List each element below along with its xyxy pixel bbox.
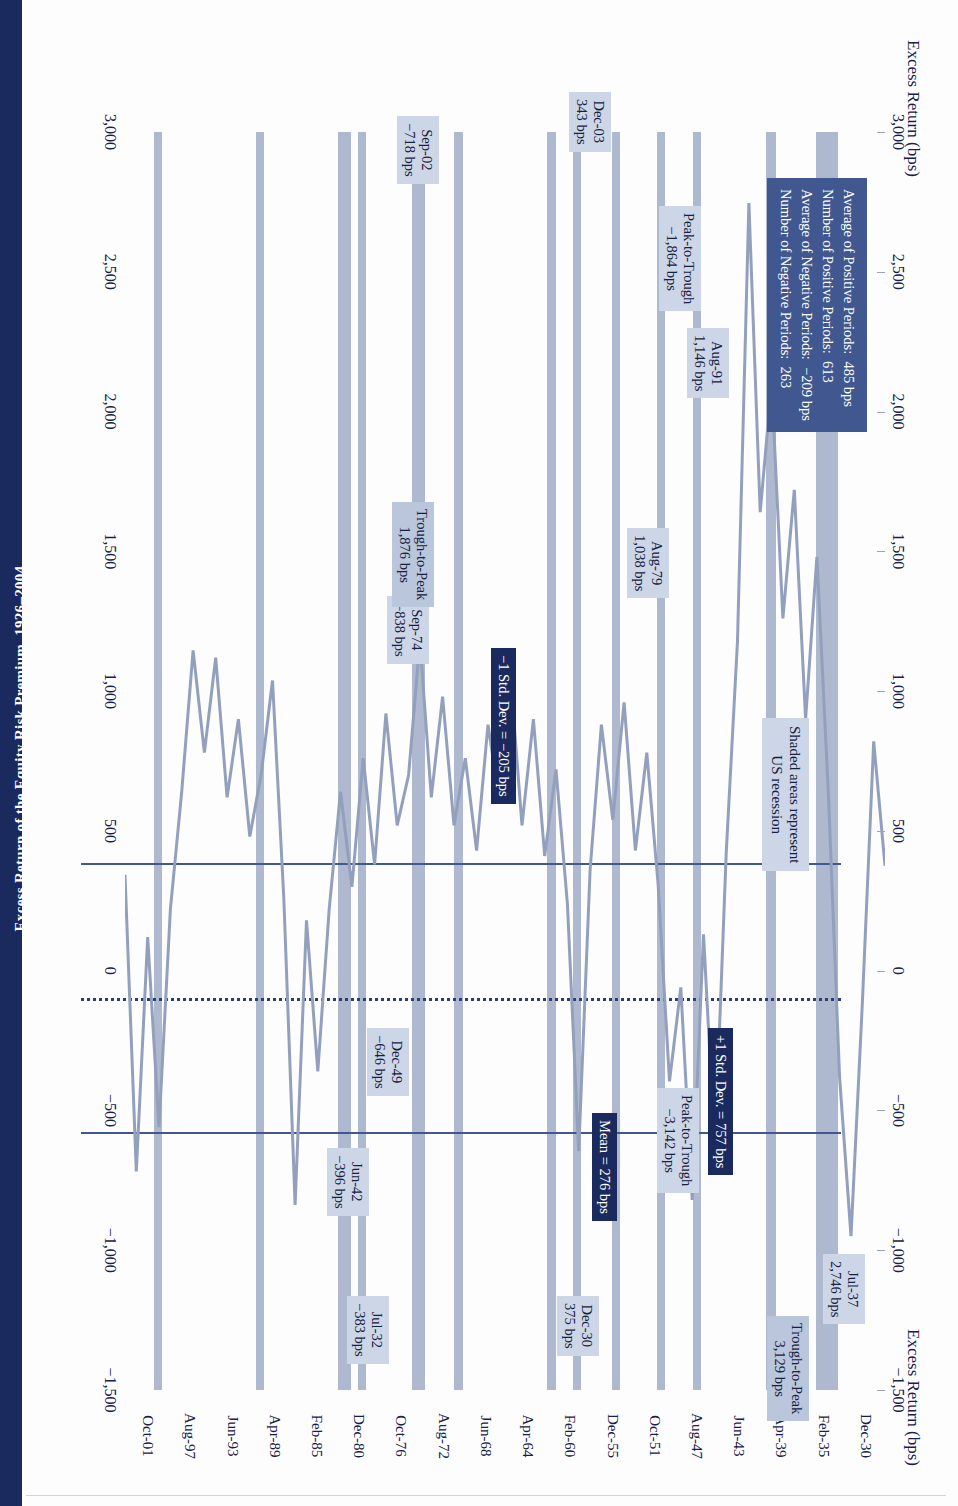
date-tick-label: Dec-80 <box>350 1414 367 1458</box>
date-tick-label: Oct-51 <box>646 1415 663 1457</box>
value-tick-label: 1,000 <box>889 673 907 709</box>
page-rule <box>26 1495 946 1496</box>
value-tick-label: 500 <box>889 819 907 843</box>
value-tick-label: −500 <box>889 1094 907 1127</box>
value-tick-label: 2,000 <box>101 394 119 430</box>
date-tick-label: Feb-35 <box>815 1415 832 1458</box>
date-tick-label: Feb-60 <box>561 1415 578 1458</box>
value-tick-mark <box>877 691 885 692</box>
date-tick-label: Aug-72 <box>435 1413 452 1459</box>
value-tick-label: −500 <box>101 1094 119 1127</box>
value-tick-mark <box>877 272 885 273</box>
value-tick-mark <box>877 1250 885 1251</box>
chart-page: Excess Return of the Equity Risk Premium… <box>0 0 958 1506</box>
value-tick-label: 500 <box>101 819 119 843</box>
plus-one-std-dev-label: +1 Std. Dev. = 757 bps <box>708 1028 733 1175</box>
recession-note: Shaded areas represent US recession <box>762 718 809 871</box>
value-tick-mark <box>877 551 885 552</box>
date-tick-label: Oct-01 <box>139 1415 156 1457</box>
date-tick-label: Feb-85 <box>308 1415 325 1458</box>
value-tick-label: 0 <box>101 967 119 975</box>
date-tick-label: Oct-76 <box>392 1415 409 1457</box>
date-tick-label: Jun-43 <box>730 1416 747 1457</box>
date-tick-label: Aug-97 <box>181 1413 198 1459</box>
value-tick-label: −1,500 <box>101 1367 119 1412</box>
value-tick-label: 0 <box>889 967 907 975</box>
value-tick-label: −1,000 <box>889 1228 907 1273</box>
y-axis-title-left: Excess Return (bps) <box>903 40 923 177</box>
minus-one-std-dev-label: −1 Std. Dev. = −205 bps <box>491 648 516 804</box>
value-tick-label: 1,000 <box>101 673 119 709</box>
value-tick-mark <box>877 1390 885 1391</box>
callout-jun-42: Jun-42 −396 bps <box>327 1148 369 1216</box>
callout-sep-02: Sep-02 −718 bps <box>397 116 439 184</box>
callout-dec-30: Dec-30 375 bps <box>557 1296 599 1356</box>
callout-jul-32: Jul-32 −383 bps <box>347 1296 389 1364</box>
value-tick-label: 2,000 <box>889 394 907 430</box>
value-tick-mark <box>877 971 885 972</box>
value-tick-label: 1,500 <box>889 533 907 569</box>
value-tick-label: −1,500 <box>889 1367 907 1412</box>
date-tick-label: Jun-68 <box>477 1416 494 1457</box>
value-tick-mark <box>877 412 885 413</box>
callout-peak-to-trough-1990s: Peak-to-Trough −1,864 bps <box>659 206 701 311</box>
callout-trough-to-peak-1970s: Trough-to-Peak 1,876 bps <box>392 502 434 607</box>
callout-aug-91: Aug-91 1,146 bps <box>687 328 729 398</box>
callout-aug-79: Aug-79 1,038 bps <box>627 528 669 598</box>
date-tick-label: Dec-30 <box>857 1414 874 1458</box>
date-tick-label: Apr-89 <box>266 1414 283 1457</box>
value-tick-mark <box>877 831 885 832</box>
value-tick-label: 3,000 <box>889 114 907 150</box>
date-tick-label: Dec-55 <box>604 1414 621 1458</box>
callout-peak-to-trough-1930s: Peak-to-Trough −3,142 bps <box>657 1088 699 1193</box>
callout-jul-37: Jul-37 2,746 bps <box>823 1254 865 1324</box>
date-tick-label: Jun-93 <box>224 1416 241 1457</box>
date-tick-label: Apr-64 <box>519 1414 536 1457</box>
value-tick-label: 2,500 <box>889 254 907 290</box>
callout-trough-to-peak-1930s: Trough-to-Peak 3,129 bps <box>767 1316 809 1421</box>
value-tick-mark <box>877 132 885 133</box>
value-tick-mark <box>877 1110 885 1111</box>
callout-dec-03: Dec-03 343 bps <box>569 92 611 152</box>
callout-dec-49: Dec-49 −646 bps <box>367 1028 409 1096</box>
plot-area: Excess Return (bps) Excess Return (bps) … <box>29 28 929 1478</box>
value-tick-label: −1,000 <box>101 1228 119 1273</box>
value-tick-label: 3,000 <box>101 114 119 150</box>
value-tick-label: 1,500 <box>101 533 119 569</box>
mean-label: Mean = 276 bps <box>592 1113 617 1221</box>
rotated-chart-container: Excess Return (bps) Excess Return (bps) … <box>29 28 929 1478</box>
figure-title: Excess Return of the Equity Risk Premium… <box>12 249 29 1249</box>
figure-title-bar: Excess Return of the Equity Risk Premium… <box>0 0 22 1506</box>
statistics-box: Average of Positive Periods: 485 bps Num… <box>767 178 867 432</box>
date-tick-label: Aug-47 <box>688 1413 705 1459</box>
value-tick-label: 2,500 <box>101 254 119 290</box>
